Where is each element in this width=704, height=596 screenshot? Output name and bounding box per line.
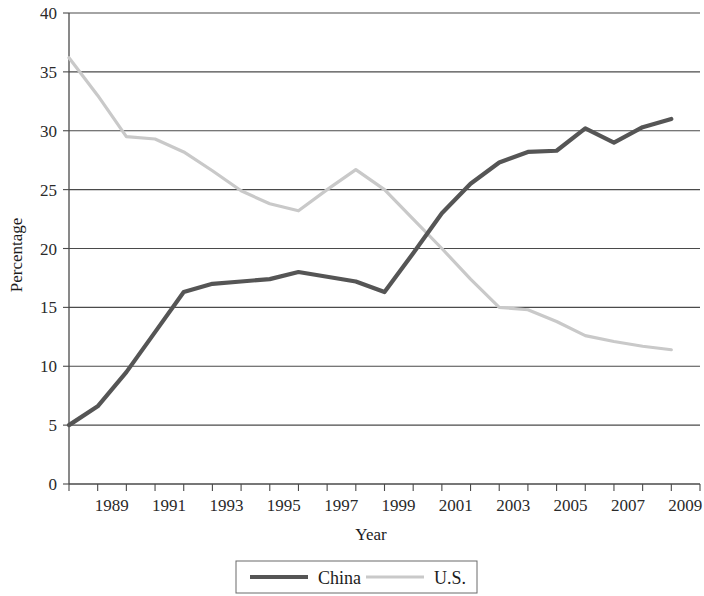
y-tick-label-30: 30 <box>40 122 57 141</box>
line-chart-figure: 0510152025303540 19891991199319951997199… <box>0 0 704 596</box>
y-tick-label-0: 0 <box>49 475 58 494</box>
series-line-us <box>69 58 671 350</box>
x-tick-label-1997: 1997 <box>324 496 359 515</box>
y-tick-label-5: 5 <box>49 416 58 435</box>
y-tick-label-25: 25 <box>40 181 57 200</box>
series-layer <box>69 58 671 425</box>
x-tick-labels: 1989199119931995199719992001200320052007… <box>95 496 703 515</box>
horizontal-gridlines <box>69 13 700 425</box>
y-tick-label-35: 35 <box>40 63 57 82</box>
x-tick-label-2001: 2001 <box>439 496 473 515</box>
x-tick-label-1995: 1995 <box>267 496 301 515</box>
x-tick-label-1993: 1993 <box>209 496 243 515</box>
y-tick-label-40: 40 <box>40 4 57 23</box>
x-tick-label-2007: 2007 <box>611 496 646 515</box>
x-tick-label-2009: 2009 <box>668 496 702 515</box>
legend-label-china: China <box>318 568 361 588</box>
chart-canvas: 0510152025303540 19891991199319951997199… <box>0 0 704 596</box>
chart-legend: ChinaU.S. <box>236 561 477 593</box>
y-axis-title: Percentage <box>7 218 26 293</box>
x-tick-label-1999: 1999 <box>382 496 416 515</box>
y-tick-label-20: 20 <box>40 240 57 259</box>
series-line-china <box>69 119 671 425</box>
x-tick-label-1989: 1989 <box>95 496 129 515</box>
y-axis <box>63 13 69 484</box>
x-tick-label-2005: 2005 <box>554 496 588 515</box>
legend-label-us: U.S. <box>434 568 466 588</box>
x-axis-title: Year <box>355 525 387 544</box>
x-tick-label-2003: 2003 <box>496 496 530 515</box>
y-tick-labels: 0510152025303540 <box>40 4 57 494</box>
y-tick-label-15: 15 <box>40 298 57 317</box>
x-tick-label-1991: 1991 <box>152 496 186 515</box>
y-tick-label-10: 10 <box>40 357 57 376</box>
x-axis <box>69 484 700 491</box>
